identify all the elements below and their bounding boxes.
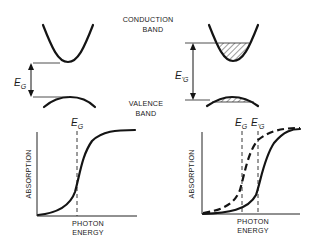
x-axis-label-2: ENERGY xyxy=(72,228,104,237)
x-axis-label-1: PHOTON xyxy=(237,217,269,226)
absorption-curve xyxy=(38,130,135,215)
left-absorption-plot: EG ABSORPTION PHOTON ENERGY xyxy=(24,117,137,237)
conduction-label-1: CONDUCTION xyxy=(123,15,174,24)
gap-arrow-up-head xyxy=(190,43,196,50)
x-axis-label-2: ENERGY xyxy=(237,226,269,235)
eg-marker-label: EG xyxy=(71,117,84,130)
valence-label-1: VALENCE xyxy=(129,99,163,108)
gap-arrow-down-head xyxy=(28,90,34,97)
valence-label-2: BAND xyxy=(136,109,157,118)
gap-arrow-up-head xyxy=(28,63,34,70)
gap-label: EG xyxy=(14,77,27,90)
eg-prime-marker-label: E'G xyxy=(251,117,265,130)
x-axis-label-1: PHOTON xyxy=(72,219,104,228)
band-gap-diagram: EG CONDUCTION BAND VALENCE BAND E'G EG A… xyxy=(0,0,322,248)
right-absorption-plot: EG E'G ABSORPTION PHOTON ENERGY xyxy=(187,117,300,235)
conduction-label-2: BAND xyxy=(143,25,164,34)
band-labels: CONDUCTION BAND VALENCE BAND xyxy=(123,15,174,118)
conduction-band-curve xyxy=(43,25,93,62)
right-band-diagram: E'G xyxy=(175,25,258,106)
gap-arrow-down-head xyxy=(190,93,196,100)
absorption-curve-solid xyxy=(203,129,300,214)
valence-band-curve xyxy=(44,97,95,107)
gap-label: E'G xyxy=(175,70,189,83)
y-axis-label: ABSORPTION xyxy=(24,149,33,198)
eg-marker-label: EG xyxy=(235,117,248,130)
y-axis-label: ABSORPTION xyxy=(187,149,196,198)
left-band-diagram: EG xyxy=(14,25,95,107)
